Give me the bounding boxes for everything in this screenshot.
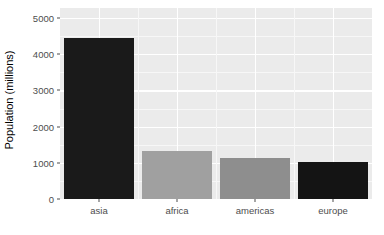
x-tick-mark [333,199,334,202]
x-tick-mark [177,199,178,202]
y-tick-label: 5000 [33,13,54,24]
x-tick-mark [255,199,256,202]
x-tick-label-americas: americas [236,205,275,216]
bar-africa [142,151,212,199]
y-tick-label: 0 [49,194,54,205]
gridline-minor-vertical [294,8,295,199]
bar-asia [64,38,134,199]
y-tick-label: 3000 [33,85,54,96]
gridline-minor-vertical [216,8,217,199]
y-axis-title-label: Population (millions) [3,50,15,149]
bar-americas [220,158,290,199]
y-tick-label: 1000 [33,157,54,168]
bar-chart: Population (millions) 010002000300040005… [0,0,384,235]
x-axis-tick-group: asiaafricaamericaseurope [60,199,372,235]
gridline-minor-vertical [138,8,139,199]
bar-europe [298,162,368,199]
x-tick-label-europe: europe [318,205,348,216]
y-axis-title: Population (millions) [0,0,18,199]
y-axis-tick-group: 010002000300040005000 [18,0,60,235]
y-tick-label: 2000 [33,121,54,132]
x-tick-label-africa: africa [165,205,188,216]
plot-panel [60,8,372,199]
x-tick-mark [99,199,100,202]
x-tick-label-asia: asia [90,205,107,216]
y-tick-label: 4000 [33,49,54,60]
